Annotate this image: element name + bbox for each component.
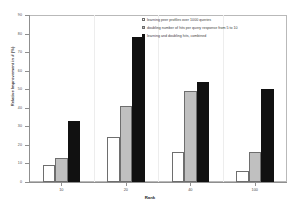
bar-20-series-1 bbox=[120, 106, 133, 182]
y-tick-mark bbox=[25, 163, 29, 164]
y-tick-mark bbox=[25, 126, 29, 127]
legend-label: learning peer profiles over 1000 queries bbox=[147, 18, 211, 22]
x-tick-label: 20 bbox=[106, 188, 146, 193]
white-swatch bbox=[142, 18, 145, 21]
y-tick-mark bbox=[25, 52, 29, 53]
y-tick-label: 20 bbox=[0, 143, 22, 147]
bar-40-series-1 bbox=[184, 91, 197, 182]
y-axis-title: Relative Improvement in # (%) bbox=[10, 22, 15, 132]
legend-label: doubling number of hits per query respon… bbox=[147, 26, 238, 30]
x-axis-title: Rank bbox=[0, 195, 300, 201]
x-tick-mark bbox=[61, 182, 62, 186]
y-tick-mark bbox=[25, 145, 29, 146]
legend-label: learning and doubling hits, combined bbox=[147, 34, 206, 38]
y-tick-mark bbox=[25, 108, 29, 109]
chart-legend: learning peer profiles over 1000 queries… bbox=[142, 16, 284, 40]
y-tick-label: 0 bbox=[0, 180, 22, 184]
y-axis-line bbox=[29, 15, 30, 182]
y-tick-label: 10 bbox=[0, 161, 22, 165]
x-tick-label: 10 bbox=[41, 188, 81, 193]
y-tick-mark bbox=[25, 71, 29, 72]
bar-10-series-1 bbox=[55, 158, 68, 182]
bar-100-series-2 bbox=[261, 89, 274, 182]
y-tick-mark bbox=[25, 89, 29, 90]
bar-100-series-0 bbox=[236, 171, 249, 182]
legend-item: learning and doubling hits, combined bbox=[142, 32, 284, 39]
bar-10-series-0 bbox=[43, 165, 56, 182]
group-separator bbox=[223, 15, 224, 182]
group-separator bbox=[94, 15, 95, 182]
x-tick-mark bbox=[126, 182, 127, 186]
bar-40-series-2 bbox=[197, 82, 210, 182]
gray-swatch bbox=[142, 26, 145, 29]
bar-40-series-0 bbox=[172, 152, 185, 182]
y-tick-mark bbox=[25, 34, 29, 35]
bar-chart: 0102030405060708090 102040100 Relative I… bbox=[0, 0, 300, 210]
y-tick-label: 90 bbox=[0, 13, 22, 17]
legend-item: learning peer profiles over 1000 queries bbox=[142, 16, 284, 23]
y-tick-mark bbox=[25, 15, 29, 16]
bar-10-series-2 bbox=[68, 121, 81, 182]
y-tick-mark bbox=[25, 182, 29, 183]
x-tick-mark bbox=[190, 182, 191, 186]
group-separator bbox=[158, 15, 159, 182]
x-tick-label: 40 bbox=[170, 188, 210, 193]
bar-20-series-0 bbox=[107, 137, 120, 182]
legend-item: doubling number of hits per query respon… bbox=[142, 24, 284, 31]
bar-20-series-2 bbox=[132, 37, 145, 182]
black-swatch bbox=[142, 34, 145, 37]
x-tick-mark bbox=[255, 182, 256, 186]
x-axis-line bbox=[29, 182, 287, 183]
x-tick-label: 100 bbox=[235, 188, 275, 193]
bar-100-series-1 bbox=[249, 152, 262, 182]
